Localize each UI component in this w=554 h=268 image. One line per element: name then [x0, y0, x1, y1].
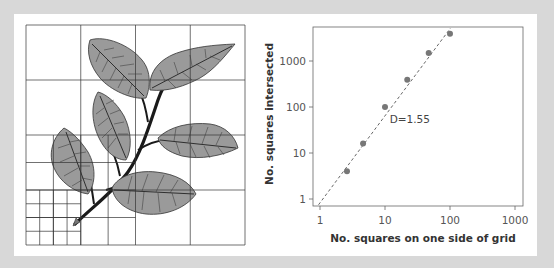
leaf-diagram: [26, 25, 245, 245]
data-point: [360, 141, 366, 147]
data-point: [447, 31, 453, 37]
data-point: [404, 77, 410, 83]
data-point: [382, 104, 388, 110]
x-tick-label: 10: [378, 214, 391, 226]
x-axis-title: No. squares on one side of grid: [330, 232, 515, 244]
data-point: [344, 168, 350, 174]
y-axis-title: No. squares intersected: [263, 43, 275, 185]
y-axis-ticks: 1101001000: [279, 55, 313, 205]
x-axis-ticks: 1101001000: [317, 206, 529, 226]
y-tick-label: 1: [299, 193, 306, 205]
x-tick-label: 100: [440, 214, 460, 226]
x-tick-label: 1: [317, 214, 324, 226]
figure-canvas: 1101001000 1101001000 D=1.55 No. squares…: [0, 0, 554, 268]
log-log-chart: 1101001000 1101001000 D=1.55 No. squares…: [263, 27, 528, 244]
y-tick-label: 1000: [279, 55, 306, 67]
dimension-annotation: D=1.55: [390, 113, 430, 125]
x-tick-label: 1000: [502, 214, 529, 226]
y-tick-label: 10: [293, 147, 306, 159]
data-point: [426, 50, 432, 56]
y-tick-label: 100: [286, 101, 306, 113]
